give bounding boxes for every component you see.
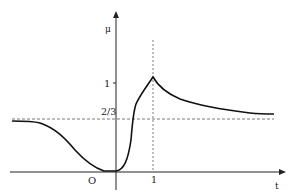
y-axis-arrow-icon (113, 11, 119, 18)
x-tick-label-1: 1 (151, 174, 157, 185)
y-tick-label-1: 1 (104, 78, 110, 89)
y-tick-label-two-thirds: 2/3 (101, 106, 116, 117)
origin-label: O (88, 175, 96, 186)
x-axis-arrow-icon (279, 169, 286, 175)
mu-curve (12, 77, 274, 171)
chart: μ t O 1 2/3 1 (0, 0, 292, 195)
x-axis-label: t (275, 181, 279, 191)
y-axis-label: μ (105, 24, 111, 34)
